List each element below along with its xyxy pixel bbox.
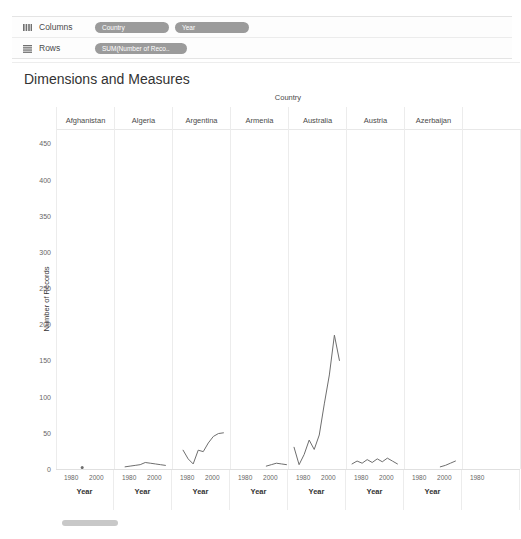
y-axis-tick: 200 xyxy=(39,321,51,328)
horizontal-scrollbar[interactable] xyxy=(12,519,512,529)
x-axis-panel: 19802000Year xyxy=(114,470,172,510)
chart-panel[interactable] xyxy=(173,129,231,469)
x-axis-tick: 2000 xyxy=(89,474,103,481)
column-header[interactable]: Australia xyxy=(288,107,346,129)
x-axis-panel: 1980 xyxy=(462,470,520,510)
x-axis-panel: 19802000Year xyxy=(56,470,114,510)
x-axis-tick: 1980 xyxy=(412,474,426,481)
x-axis-title: Year xyxy=(288,487,345,496)
x-axis-title: Year xyxy=(56,487,113,496)
page-title: Dimensions and Measures xyxy=(12,63,520,93)
field-pill[interactable]: SUM(Number of Reco.. xyxy=(95,43,187,54)
column-header[interactable] xyxy=(462,107,520,129)
column-field-label: Country xyxy=(56,93,520,102)
x-axis-tick: 2000 xyxy=(263,474,277,481)
x-axis-tick: 2000 xyxy=(147,474,161,481)
columns-icon xyxy=(20,23,34,32)
y-axis-tick: 450 xyxy=(39,140,51,147)
y-axis-tick: 150 xyxy=(39,357,51,364)
chart-panel[interactable] xyxy=(289,129,347,469)
x-axis-tick: 1980 xyxy=(122,474,136,481)
y-axis-tick: 50 xyxy=(43,429,51,436)
x-axis: 19802000Year19802000Year19802000Year1980… xyxy=(56,469,520,510)
panel-container xyxy=(56,129,521,469)
x-axis-tick: 1980 xyxy=(470,474,484,481)
chart-canvas: Country AfghanistanAlgeriaArgentinaArmen… xyxy=(12,93,520,525)
x-axis-panel: 19802000Year xyxy=(404,470,462,510)
scrollbar-thumb[interactable] xyxy=(62,520,118,526)
x-axis-title: Year xyxy=(172,487,229,496)
x-axis-tick: 2000 xyxy=(437,474,451,481)
x-axis-tick: 1980 xyxy=(354,474,368,481)
column-header[interactable]: Azerbaijan xyxy=(404,107,462,129)
x-axis-tick: 2000 xyxy=(321,474,335,481)
chart-panel[interactable] xyxy=(57,129,115,469)
shelf-rows[interactable]: RowsSUM(Number of Reco.. xyxy=(12,38,512,58)
chart-panel[interactable] xyxy=(115,129,173,469)
y-axis-tick: 400 xyxy=(39,176,51,183)
chart-panel[interactable] xyxy=(231,129,289,469)
x-axis-tick: 1980 xyxy=(64,474,78,481)
y-axis: Number of Records 0501001502002503003504… xyxy=(12,129,56,469)
x-axis-title: Year xyxy=(230,487,287,496)
plot-region: Number of Records 0501001502002503003504… xyxy=(12,129,520,469)
column-header[interactable]: Afghanistan xyxy=(56,107,114,129)
x-axis-panel: 19802000Year xyxy=(288,470,346,510)
column-headers: AfghanistanAlgeriaArgentinaArmeniaAustra… xyxy=(56,107,520,130)
chart-panel[interactable] xyxy=(347,129,405,469)
y-axis-tick: 300 xyxy=(39,248,51,255)
column-header[interactable]: Armenia xyxy=(230,107,288,129)
field-pill[interactable]: Year xyxy=(175,22,249,33)
chart-panel[interactable] xyxy=(463,129,521,469)
worksheet: Dimensions and Measures Country Afghanis… xyxy=(12,62,520,539)
x-axis-title: Year xyxy=(114,487,171,496)
y-axis-tick: 100 xyxy=(39,393,51,400)
shelf-label: Columns xyxy=(39,22,95,32)
rows-icon xyxy=(20,44,34,53)
x-axis-panel: 19802000Year xyxy=(230,470,288,510)
shelf-area: ColumnsCountryYearRowsSUM(Number of Reco… xyxy=(12,16,512,59)
y-axis-tick: 0 xyxy=(47,466,51,473)
x-axis-title: Year xyxy=(346,487,403,496)
x-axis-tick: 1980 xyxy=(296,474,310,481)
column-header[interactable]: Argentina xyxy=(172,107,230,129)
x-axis-panel: 19802000Year xyxy=(346,470,404,510)
x-axis-tick: 2000 xyxy=(379,474,393,481)
chart-panel[interactable] xyxy=(405,129,463,469)
y-axis-tick: 250 xyxy=(39,285,51,292)
x-axis-panel: 19802000Year xyxy=(172,470,230,510)
column-header[interactable]: Austria xyxy=(346,107,404,129)
column-header[interactable]: Algeria xyxy=(114,107,172,129)
x-axis-title: Year xyxy=(404,487,461,496)
x-axis-tick: 2000 xyxy=(205,474,219,481)
shelf-columns[interactable]: ColumnsCountryYear xyxy=(12,17,512,38)
field-pill[interactable]: Country xyxy=(95,22,169,33)
x-axis-tick: 1980 xyxy=(238,474,252,481)
x-axis-tick: 1980 xyxy=(180,474,194,481)
y-axis-tick: 350 xyxy=(39,212,51,219)
shelf-label: Rows xyxy=(39,43,95,53)
